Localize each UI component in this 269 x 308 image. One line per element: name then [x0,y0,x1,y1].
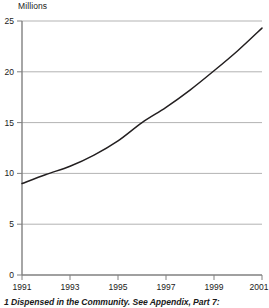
chart-figure: Millions 25 20 15 10 5 0 [0,0,269,308]
xtick-label-2001: 2001 [250,282,269,292]
axes [22,21,262,275]
xtick-label-1995: 1995 [109,282,128,292]
xtick-label-1999: 1999 [205,282,224,292]
ytick-label-5: 5 [9,219,14,229]
xtick-label-1997: 1997 [157,282,176,292]
footnote-text: 1 Dispensed in the Community. See Append… [4,297,220,307]
line-chart: 25 20 15 10 5 0 1991 1993 1995 1997 1999… [0,0,269,292]
y-axis-ticks [17,21,22,275]
ytick-label-25: 25 [5,16,15,26]
x-axis-tick-labels: 1991 1993 1995 1997 1999 2001 [13,282,269,292]
ytick-label-15: 15 [5,118,15,128]
ytick-label-20: 20 [5,67,15,77]
xtick-label-1991: 1991 [13,282,32,292]
y-axis-tick-labels: 25 20 15 10 5 0 [5,16,15,280]
xtick-label-1993: 1993 [61,282,80,292]
ytick-label-0: 0 [9,270,14,280]
x-axis-ticks [22,275,262,280]
ytick-label-10: 10 [5,168,15,178]
series-line-prescription-items [22,28,262,183]
